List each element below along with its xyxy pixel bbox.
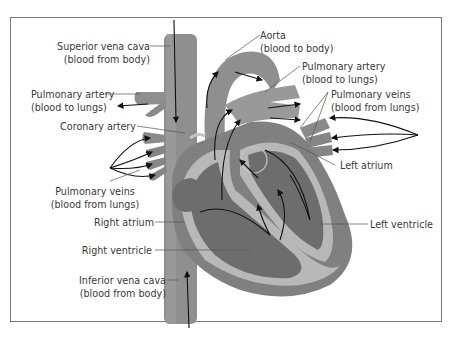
label-line: (blood to lungs) (31, 101, 114, 114)
label-line: Inferior vena cava (60, 274, 166, 287)
label-line: Pulmonary artery (31, 88, 114, 101)
label-aorta: Aorta (blood to body) (260, 29, 334, 55)
label-line: (blood from body) (40, 53, 150, 66)
label-line: Left ventricle (370, 218, 433, 231)
label-pulmonary-veins-right: Pulmonary veins (blood from lungs) (331, 88, 419, 114)
label-line: Pulmonary artery (302, 60, 385, 73)
label-line: Aorta (260, 29, 334, 42)
label-line: Pulmonary veins (331, 88, 419, 101)
label-line: (blood to body) (260, 42, 334, 55)
label-inferior-vena-cava: Inferior vena cava (blood from body) (60, 274, 166, 300)
label-line: Superior vena cava (40, 40, 150, 53)
label-left-atrium: Left atrium (340, 159, 393, 172)
label-coronary-artery: Coronary artery (50, 120, 136, 133)
label-line: Coronary artery (50, 120, 136, 133)
label-line: Right atrium (70, 216, 154, 229)
label-line: Pulmonary veins (40, 185, 150, 198)
label-pulmonary-artery-left: Pulmonary artery (blood to lungs) (31, 88, 114, 114)
label-line: (blood from lungs) (331, 101, 419, 114)
label-line: Right ventricle (60, 244, 152, 257)
label-right-ventricle: Right ventricle (60, 244, 152, 257)
label-left-ventricle: Left ventricle (370, 218, 433, 231)
label-pulmonary-artery-right: Pulmonary artery (blood to lungs) (302, 60, 385, 86)
label-line: Left atrium (340, 159, 393, 172)
label-line: (blood to lungs) (302, 73, 385, 86)
label-pulmonary-veins-left: Pulmonary veins (blood from lungs) (40, 185, 150, 211)
label-superior-vena-cava: Superior vena cava (blood from body) (40, 40, 150, 66)
label-line: (blood from body) (60, 287, 166, 300)
pulmonary-veins-left-vessel (142, 132, 167, 181)
label-line: (blood from lungs) (40, 198, 150, 211)
label-right-atrium: Right atrium (70, 216, 154, 229)
